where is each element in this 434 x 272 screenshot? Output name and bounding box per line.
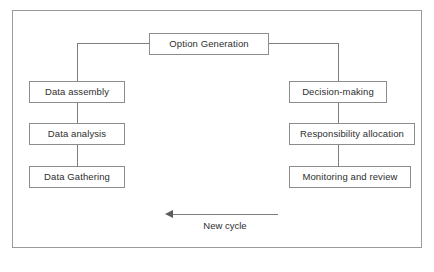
connector-option-generation-left bbox=[77, 43, 150, 44]
connector-left-branch-down bbox=[77, 43, 78, 81]
connector-right-branch-down bbox=[338, 43, 339, 81]
diagram-canvas: Option Generation Data assembly Data ana… bbox=[0, 0, 434, 272]
connector-decision-to-responsibility bbox=[338, 102, 339, 123]
node-decision-making[interactable]: Decision-making bbox=[289, 81, 387, 103]
connector-assembly-to-analysis bbox=[77, 102, 78, 123]
connector-responsibility-to-monitoring bbox=[338, 144, 339, 166]
connector-option-generation-right bbox=[269, 43, 339, 44]
node-data-gathering[interactable]: Data Gathering bbox=[29, 166, 125, 188]
arrow-left-icon bbox=[165, 210, 173, 218]
node-monitoring-and-review[interactable]: Monitoring and review bbox=[289, 166, 411, 188]
node-option-generation-label: Option Generation bbox=[169, 39, 248, 49]
node-data-gathering-label: Data Gathering bbox=[44, 172, 110, 182]
node-data-analysis[interactable]: Data analysis bbox=[29, 123, 125, 145]
connector-analysis-to-gathering bbox=[77, 144, 78, 166]
node-monitoring-and-review-label: Monitoring and review bbox=[302, 172, 397, 182]
outer-border: Option Generation Data assembly Data ana… bbox=[12, 10, 422, 248]
node-responsibility-allocation-label: Responsibility allocation bbox=[300, 129, 404, 139]
node-decision-making-label: Decision-making bbox=[302, 87, 374, 97]
new-cycle-label: New cycle bbox=[150, 220, 300, 231]
node-option-generation[interactable]: Option Generation bbox=[149, 33, 269, 55]
node-data-assembly[interactable]: Data assembly bbox=[29, 81, 125, 103]
node-data-assembly-label: Data assembly bbox=[45, 87, 109, 97]
node-data-analysis-label: Data analysis bbox=[48, 129, 106, 139]
new-cycle-arrow-line bbox=[172, 214, 278, 215]
node-responsibility-allocation[interactable]: Responsibility allocation bbox=[289, 123, 415, 145]
